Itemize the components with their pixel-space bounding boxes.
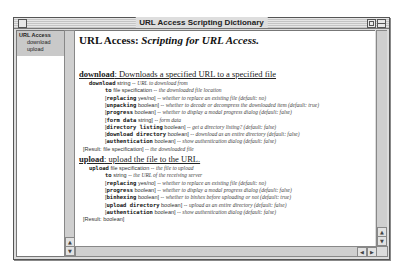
- parameter-type: boolean: [138, 102, 158, 108]
- sidebar-scroll-down-icon[interactable]: ▼: [65, 246, 75, 256]
- parameter-name: replacing: [107, 180, 137, 186]
- parameter-description: URL to download from: [137, 80, 188, 86]
- parameter-type: boolean: [138, 194, 158, 200]
- parameter-line: [download directory boolean] -- download…: [105, 131, 300, 138]
- parameter-description: the file to upload: [156, 165, 193, 171]
- parameter-type: file specification: [113, 87, 152, 93]
- parameter-type: boolean: [164, 124, 184, 130]
- parameter-name: replacing: [107, 95, 137, 101]
- resize-grip-icon[interactable]: [376, 246, 388, 257]
- parameter-name: download directory: [107, 131, 167, 137]
- parameter-description: the URL of the receiving server: [133, 172, 202, 178]
- parameter-description: show authentication dialog (default: fal…: [182, 138, 276, 144]
- parameter-line: [progress boolean] -- whether to display…: [105, 187, 292, 194]
- parameter-line: [directory listing boolean] -- get a dir…: [105, 124, 276, 131]
- command-heading-upload[interactable]: upload: upload the file to the URL.: [79, 154, 200, 164]
- collapse-box-icon[interactable]: [377, 19, 386, 28]
- sidebar: URL Access download upload: [16, 30, 65, 257]
- parameter-description: whether to display a modal progress dial…: [162, 109, 291, 115]
- parameter-description: the downloaded file location: [159, 87, 222, 93]
- parameter-line: [replacing yes/no] -- whether to replace…: [105, 95, 266, 102]
- parameter-line: [progress boolean] -- whether to display…: [105, 109, 292, 116]
- parameter-line: [authentication boolean] -- show authent…: [105, 138, 276, 145]
- sidebar-item-url-access[interactable]: URL Access: [19, 32, 51, 39]
- parameter-line: [form data string] -- form data: [105, 117, 181, 124]
- parameter-line: [replacing yes/no] -- whether to replace…: [105, 180, 266, 187]
- result-label: [Result:: [83, 146, 102, 152]
- parameter-name: to: [105, 87, 112, 93]
- parameter-name: directory listing: [107, 124, 163, 130]
- parameter-description: show authentication dialog (default: fal…: [182, 209, 276, 215]
- title-bar[interactable]: URL Access Scripting Dictionary: [14, 18, 389, 29]
- command-description: : upload the file to the URL.: [104, 154, 200, 164]
- parameter-type: string: [113, 172, 126, 178]
- result-line: [Result: boolean]: [83, 216, 124, 223]
- scroll-down-icon[interactable]: ▼: [377, 236, 387, 246]
- parameter-name: progress: [107, 109, 134, 115]
- parameter-type: boolean: [161, 202, 181, 208]
- parameter-name: authentication: [107, 209, 153, 215]
- sidebar-item-upload[interactable]: upload: [27, 46, 44, 53]
- parameter-description: get a directory listing? (default: false…: [192, 124, 276, 130]
- parameter-name: binhexing: [107, 194, 137, 200]
- result-type: boolean]: [103, 216, 124, 222]
- parameter-line: to string -- the URL of the receiving se…: [105, 172, 202, 179]
- page-title: URL Access: Scripting for URL Access.: [79, 34, 259, 46]
- parameter-type: string: [138, 117, 151, 123]
- parameter-type: string: [117, 80, 130, 86]
- parameter-description: whether to binhex before uploading or no…: [166, 194, 291, 200]
- parameter-line: to file specification -- the downloaded …: [105, 87, 222, 94]
- parameter-name: unpacking: [107, 102, 137, 108]
- parameter-name: to: [105, 172, 112, 178]
- result-description: the downloaded file: [150, 146, 193, 152]
- close-box-icon[interactable]: [18, 19, 27, 28]
- heading-description: Scripting for URL Access.: [141, 34, 259, 46]
- parameter-line: [binhexing boolean] -- whether to binhex…: [105, 194, 291, 201]
- sidebar-item-download[interactable]: download: [27, 39, 51, 46]
- parameter-name: form data: [107, 117, 137, 123]
- dictionary-window: URL Access Scripting Dictionary URL Acce…: [13, 17, 390, 260]
- parameter-type: boolean: [154, 138, 174, 144]
- heading-suite: URL Access:: [79, 34, 141, 46]
- parameter-description: whether to replace an existing file (def…: [162, 180, 266, 186]
- parameter-type: file specification: [110, 165, 149, 171]
- scroll-left-icon[interactable]: ◀: [357, 247, 367, 257]
- parameter-name: upload: [89, 165, 109, 171]
- parameter-description: download as an entire directory (default…: [196, 131, 300, 137]
- sidebar-scrollbar[interactable]: ▲ ▼: [64, 30, 75, 257]
- parameter-name: upload directory: [107, 202, 160, 208]
- parameter-type: yes/no: [138, 180, 154, 186]
- parameter-type: boolean: [168, 131, 188, 137]
- parameter-name: progress: [107, 187, 134, 193]
- result-line: [Result: file specification] -- the down…: [83, 146, 194, 153]
- dictionary-content: URL Access: Scripting for URL Access. do…: [75, 30, 375, 246]
- command-name[interactable]: upload: [79, 154, 104, 164]
- parameter-description: form data: [160, 117, 182, 123]
- parameter-description: upload as an entire directory (default: …: [189, 202, 287, 208]
- parameter-name: download: [89, 80, 116, 86]
- parameter-line: [upload directory boolean] -- upload as …: [105, 202, 287, 209]
- parameter-line: [unpacking boolean] -- whether to decode…: [105, 102, 319, 109]
- parameter-line: download string -- URL to download from: [89, 80, 188, 87]
- zoom-box-icon[interactable]: [367, 19, 376, 28]
- content-horizontal-scrollbar[interactable]: ◀ ▶: [75, 246, 378, 257]
- content-vertical-scrollbar[interactable]: ▲ ▼: [376, 30, 387, 247]
- result-type: file specification]: [103, 146, 143, 152]
- window-title: URL Access Scripting Dictionary: [135, 17, 267, 28]
- parameter-line: [authentication boolean] -- show authent…: [105, 209, 276, 216]
- parameter-description: whether to decode or decompress the down…: [166, 102, 319, 108]
- parameter-type: boolean: [135, 187, 155, 193]
- result-label: [Result:: [83, 216, 102, 222]
- parameter-type: yes/no: [138, 95, 154, 101]
- command-description: : Downloads a specified URL to a specifi…: [114, 69, 276, 79]
- parameter-name: authentication: [107, 138, 153, 144]
- parameter-line: upload file specification -- the file to…: [89, 165, 193, 172]
- parameter-type: boolean: [135, 109, 155, 115]
- parameter-description: whether to replace an existing file (def…: [162, 95, 266, 101]
- command-heading-download[interactable]: download: Downloads a specified URL to a…: [79, 69, 276, 79]
- command-name[interactable]: download: [79, 69, 114, 79]
- parameter-type: boolean: [154, 209, 174, 215]
- parameter-description: whether to display a modal progress dial…: [162, 187, 291, 193]
